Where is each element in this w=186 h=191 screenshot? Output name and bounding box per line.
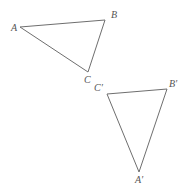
geometry-figure: A B C C′ B′ A′ <box>0 0 186 191</box>
vertex-label-c: C <box>84 75 91 85</box>
triangle-abc-prime <box>107 89 167 172</box>
vertex-label-a-prime: A′ <box>135 175 143 185</box>
triangle-abc <box>20 20 105 72</box>
vertex-label-b-prime: B′ <box>169 79 177 89</box>
vertex-label-b: B <box>111 10 117 20</box>
vertex-label-c-prime: C′ <box>94 83 103 93</box>
vertex-label-a: A <box>11 23 17 33</box>
figure-canvas <box>0 0 186 191</box>
